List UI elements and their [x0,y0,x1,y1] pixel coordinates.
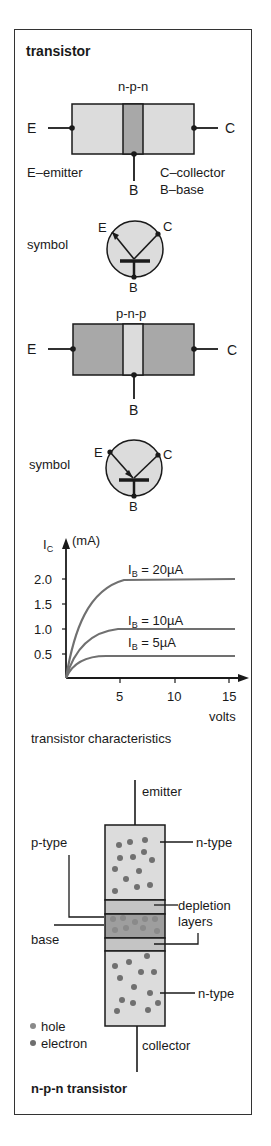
npn-collector-letter: C [225,121,235,135]
junction-depletion: depletion [178,899,231,912]
npn-base-letter: B [129,183,138,197]
legend-electron: electron [41,1037,87,1050]
pnp-symbol-e: E [94,446,103,459]
junction-layers: layers [178,915,213,928]
page-title: transistor [26,44,91,58]
npn-symbol-label: symbol [27,238,68,251]
curve-value: = 20µA [138,562,183,577]
npn-symbol-icon [107,221,163,280]
x-tick-5: 5 [116,690,123,703]
npn-symbol-c: C [163,220,172,233]
legend-base: B–base [160,183,204,196]
pnp-symbol-c: C [163,448,172,461]
npn-symbol-b: B [129,281,138,294]
graph-y-unit: (mA) [72,534,100,547]
curve-label-10ua: IB = 10µA [128,614,183,630]
y-tick-2-0: 2.0 [34,573,52,586]
graph-y-label: IC [43,538,53,554]
y-tick-1-5: 1.5 [34,598,52,611]
junction-n-type-top: n-type [196,836,232,849]
pnp-symbol-label: symbol [29,458,70,471]
y-tick-0-5: 0.5 [34,648,52,661]
y-label-sub: C [47,544,54,554]
legend-hole: hole [41,1020,66,1033]
x-tick-15: 15 [222,690,236,703]
npn-symbol-e: E [98,221,107,234]
junction-base: base [31,933,59,946]
junction-p-type: p-type [31,836,67,849]
pnp-label: p-n-p [116,307,146,320]
characteristics-graph [62,538,249,683]
legend-collector: C–collector [160,166,225,179]
pnp-symbol-b: B [129,500,138,513]
pnp-symbol-icon [106,440,162,499]
pnp-collector-letter: C [227,343,237,357]
junction-emitter-label: emitter [142,785,182,798]
npn-label: n-p-n [118,80,148,93]
pnp-block [48,324,218,399]
junction-collector-label: collector [142,1039,190,1052]
junction-n-type-bottom: n-type [198,987,234,1000]
graph-caption: transistor characteristics [31,732,171,745]
junction-caption: n-p-n transistor [31,1082,127,1095]
npn-emitter-letter: E [27,121,36,135]
graph-x-unit: volts [209,710,236,723]
x-tick-10: 10 [167,690,181,703]
pnp-base-letter: B [129,403,138,417]
curve-label-5ua: IB = 5µA [128,636,176,652]
curve-value: = 10µA [138,613,183,628]
legend-emitter: E–emitter [27,166,83,179]
pnp-emitter-letter: E [27,342,36,356]
y-tick-1-0: 1.0 [34,623,52,636]
curve-label-20ua: IB = 20µA [128,563,183,579]
curve-value: = 5µA [138,635,176,650]
